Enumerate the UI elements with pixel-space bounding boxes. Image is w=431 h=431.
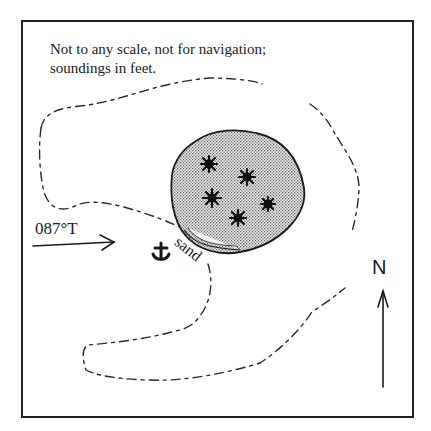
rock-icon [230,210,246,226]
north-label: N [372,256,386,279]
north-arrow-icon [378,291,388,387]
rock-icon [201,156,217,172]
rock-icon [203,189,221,207]
anchor-icon [153,243,169,259]
chart-drawing [0,0,431,431]
rock-icon [239,169,255,185]
shoal-area [171,130,304,253]
heading-label: 087°T [35,219,78,239]
rock-icon [261,197,275,211]
